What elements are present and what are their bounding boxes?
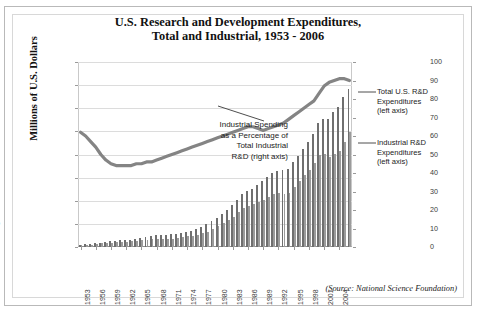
y-axis-label-left: Millions of U.S. Dollars: [28, 19, 39, 159]
chart-frame: U.S. Research and Development Expenditur…: [4, 6, 472, 306]
x-tick-mark: [81, 247, 82, 250]
x-tick-label: 1980: [221, 289, 228, 305]
x-tick-label: 1986: [251, 289, 258, 305]
x-tick-label: 1968: [160, 289, 167, 305]
y-tick-mark-right: [353, 210, 356, 211]
chart-title: U.S. Research and Development Expenditur…: [5, 15, 471, 43]
x-tick-mark: [339, 247, 340, 250]
y-tick-mark-right: [353, 81, 356, 82]
x-tick-mark: [278, 247, 279, 250]
x-tick-mark: [248, 247, 249, 250]
y-tick-label-right: 20: [430, 205, 460, 214]
x-tick-label: 1962: [129, 289, 136, 305]
plot-area: 050,000100,000150,000200,000250,000300,0…: [78, 62, 352, 247]
y-tick-mark-right: [353, 192, 356, 193]
y-tick-mark-left: [75, 247, 78, 248]
y-tick-label-right: 70: [430, 113, 460, 122]
x-tick-mark: [202, 247, 203, 250]
y-tick-mark-right: [353, 118, 356, 119]
y-tick-mark-right: [353, 155, 356, 156]
callout-industrial-rd: Industrial R&D Expenditures (left axis): [377, 138, 426, 167]
x-tick-mark: [96, 247, 97, 250]
x-tick-mark: [126, 247, 127, 250]
y-tick-label-right: 80: [430, 94, 460, 103]
callout-industrial-line2: Expenditures: [377, 148, 426, 158]
x-tick-label: 1992: [281, 289, 288, 305]
y-tick-label-right: 90: [430, 76, 460, 85]
callout-total-line1: Total U.S. R&D: [377, 87, 428, 97]
y-tick-label-right: 10: [430, 224, 460, 233]
annotation-leader-lines: [78, 62, 352, 247]
x-tick-mark: [263, 247, 264, 250]
x-tick-label: 1965: [144, 289, 151, 305]
leader-annotation-percentage: [218, 106, 264, 121]
x-tick-mark: [294, 247, 295, 250]
y-tick-mark-right: [353, 62, 356, 63]
source-note: (Source: National Science Foundation): [325, 284, 457, 293]
x-tick-mark: [111, 247, 112, 250]
x-tick-label: 1971: [175, 289, 182, 305]
y-tick-mark-right: [353, 229, 356, 230]
y-tick-label-right: 60: [430, 131, 460, 140]
x-tick-label: 1995: [297, 289, 304, 305]
x-tick-label: 1989: [266, 289, 273, 305]
x-tick-mark: [324, 247, 325, 250]
y-tick-label-right: 50: [430, 150, 460, 159]
x-tick-mark: [172, 247, 173, 250]
x-tick-label: 1974: [190, 289, 197, 305]
y-tick-mark-right: [353, 136, 356, 137]
x-tick-label: 1959: [114, 289, 121, 305]
y-tick-mark-right: [353, 173, 356, 174]
callout-total-line3: (left axis): [377, 106, 428, 116]
y-tick-label-right: 100: [430, 57, 460, 66]
y-tick-mark-right: [353, 99, 356, 100]
x-tick-label: 1953: [84, 289, 91, 305]
callout-industrial-line3: (left axis): [377, 157, 426, 167]
x-tick-mark: [157, 247, 158, 250]
callout-total-line2: Expenditures: [377, 97, 428, 107]
y-tick-label-right: 0: [430, 242, 460, 251]
chart-title-line2: Total and Industrial, 1953 - 2006: [5, 29, 471, 43]
x-tick-mark: [187, 247, 188, 250]
x-tick-label: 1956: [99, 289, 106, 305]
x-tick-mark: [218, 247, 219, 250]
x-tick-label: 1998: [312, 289, 319, 305]
x-tick-label: 1983: [236, 289, 243, 305]
x-tick-label: 1977: [205, 289, 212, 305]
x-tick-mark: [309, 247, 310, 250]
x-tick-mark: [233, 247, 234, 250]
x-tick-mark: [141, 247, 142, 250]
y-tick-label-right: 40: [430, 168, 460, 177]
callout-industrial-line1: Industrial R&D: [377, 138, 426, 148]
y-tick-label-right: 30: [430, 187, 460, 196]
callout-total-rd: Total U.S. R&D Expenditures (left axis): [377, 87, 428, 116]
y-tick-mark-right: [353, 247, 356, 248]
chart-title-line1: U.S. Research and Development Expenditur…: [5, 15, 471, 29]
